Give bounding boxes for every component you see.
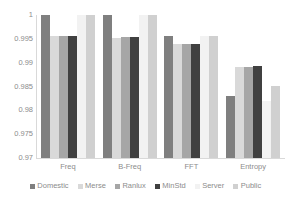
legend-swatch-icon <box>233 184 238 189</box>
y-axis-tick-label: 0.99 <box>18 59 33 67</box>
bar <box>173 44 182 158</box>
bar <box>200 36 209 158</box>
bar <box>191 44 200 158</box>
bar <box>41 15 50 158</box>
legend-swatch-icon <box>195 184 200 189</box>
legend-item[interactable]: Server <box>195 182 225 190</box>
bar <box>77 15 86 158</box>
legend-label: Server <box>202 182 224 190</box>
y-axis-tick-label: 0.97 <box>18 154 33 162</box>
x-axis-tick-label: Entropy <box>222 161 284 175</box>
legend-label: Merse <box>85 182 106 190</box>
y-axis-tick-label: 0.995 <box>14 35 33 43</box>
legend-item[interactable]: Ranlux <box>115 182 146 190</box>
x-axis-tick-label: Freq <box>37 161 99 175</box>
x-axis-tick-label: FFT <box>161 161 223 175</box>
legend-label: Public <box>241 182 261 190</box>
bar <box>112 38 121 158</box>
x-axis-line <box>36 158 285 159</box>
bar <box>148 15 157 158</box>
x-axis-category-labels: Freq B-Freq FFT Entropy <box>37 161 284 175</box>
y-axis-tick-label: 1 <box>29 11 33 19</box>
legend-label: Ranlux <box>122 182 145 190</box>
bar-group <box>99 15 161 158</box>
y-axis-tick-label: 0.975 <box>14 130 33 138</box>
legend-item[interactable]: MinStd <box>155 182 186 190</box>
y-axis-tick-label: 0.985 <box>14 83 33 91</box>
bar <box>235 67 244 158</box>
bar <box>50 36 59 158</box>
bar <box>59 36 68 159</box>
y-axis-tick-label: 0.98 <box>18 106 33 114</box>
bar-group <box>222 15 284 158</box>
bar <box>262 101 271 158</box>
bar <box>244 67 253 158</box>
bar <box>130 37 139 158</box>
x-axis-tick-label: B-Freq <box>99 161 161 175</box>
legend-label: Domestic <box>37 182 68 190</box>
bar <box>209 36 218 158</box>
bar <box>103 15 112 158</box>
legend-swatch-icon <box>155 184 160 189</box>
legend-label: MinStd <box>162 182 185 190</box>
plot-area <box>37 15 284 158</box>
bar <box>86 15 95 158</box>
bar-group <box>161 15 223 158</box>
legend-item[interactable]: Domestic <box>30 182 69 190</box>
bar <box>182 44 191 158</box>
chart-legend: DomesticMerseRanluxMinStdServerPublic <box>0 179 291 193</box>
bar-group <box>37 15 99 158</box>
legend-swatch-icon <box>78 184 83 189</box>
bar <box>271 86 280 158</box>
bar <box>226 96 235 158</box>
bar <box>68 36 77 159</box>
legend-item[interactable]: Merse <box>78 182 106 190</box>
legend-swatch-icon <box>115 184 120 189</box>
legend-item[interactable]: Public <box>233 182 261 190</box>
bar <box>253 66 262 158</box>
bar <box>121 37 130 158</box>
bar-chart: 1 0.995 0.99 0.985 0.98 0.975 0.97 Freq … <box>0 0 291 200</box>
legend-swatch-icon <box>30 184 35 189</box>
y-axis-tick-labels: 1 0.995 0.99 0.985 0.98 0.975 0.97 <box>0 0 33 200</box>
bar <box>139 15 148 158</box>
bar <box>164 36 173 158</box>
